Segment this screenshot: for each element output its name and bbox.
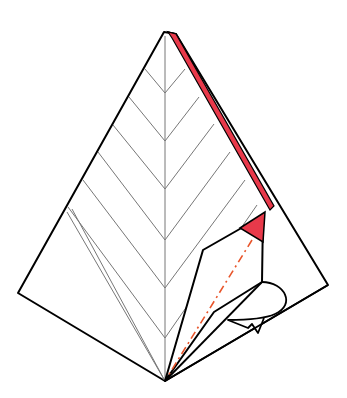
origami-diagram xyxy=(0,0,347,398)
paper-outline xyxy=(18,32,328,381)
